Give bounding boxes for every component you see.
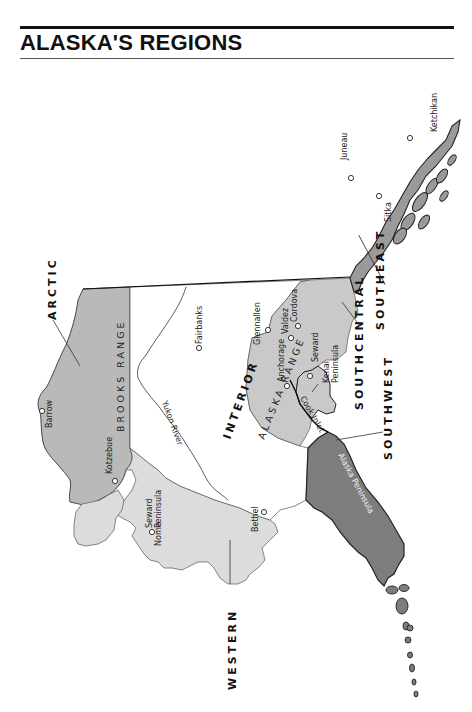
seward-peninsula-label-2: Peninsula bbox=[154, 490, 163, 528]
valdez-label: Valdez bbox=[281, 308, 290, 334]
region-label-southwest: SOUTHWEST bbox=[382, 355, 395, 460]
sitka-marker bbox=[376, 193, 381, 198]
ketchikan-label: Ketchikan bbox=[430, 93, 439, 132]
cordova-marker bbox=[295, 323, 300, 328]
nome-label: Nome bbox=[154, 522, 163, 546]
aleutian-islands bbox=[386, 585, 418, 698]
anchorage-label: Anchorage bbox=[277, 339, 286, 382]
region-label-southcentral: SOUTHCENTRAL bbox=[353, 275, 366, 410]
southwest-leader-line bbox=[336, 432, 383, 440]
barrow-label: Barrow bbox=[45, 399, 54, 428]
brooks-range-label: BROOKS RANGE bbox=[115, 319, 126, 432]
ketchikan-marker bbox=[407, 135, 412, 140]
seward-label: Seward bbox=[311, 332, 320, 362]
fairbanks-marker bbox=[196, 345, 201, 350]
seward-peninsula-label-1: Seward bbox=[145, 498, 154, 528]
fairbanks-label: Fairbanks bbox=[195, 306, 204, 344]
region-southeast-shape bbox=[350, 120, 460, 292]
valdez-marker bbox=[288, 335, 293, 340]
bethel-marker bbox=[261, 509, 266, 514]
kotzebue-marker bbox=[112, 478, 117, 483]
alaska-map: ARCTIC INTERIOR WESTERN SOUTHWEST SOUTHC… bbox=[0, 0, 472, 712]
kenai-peninsula-label-2: Peninsula bbox=[331, 345, 340, 383]
kotzebue-label: Kotzebue bbox=[105, 437, 114, 474]
kenai-peninsula-label-1: Kenai bbox=[322, 361, 331, 383]
barrow-marker bbox=[39, 408, 44, 413]
region-label-arctic: ARCTIC bbox=[46, 257, 59, 320]
region-label-western: WESTERN bbox=[226, 609, 239, 690]
sitka-label: Sitka bbox=[384, 202, 393, 222]
juneau-label: Juneau bbox=[340, 133, 349, 161]
glennallen-label: Glennallen bbox=[253, 302, 262, 345]
cordova-label: Cordova bbox=[290, 289, 299, 322]
region-label-southeast: SOUTHEAST bbox=[374, 229, 387, 330]
glennallen-marker bbox=[265, 327, 270, 332]
juneau-marker bbox=[348, 175, 353, 180]
bethel-label: Bethel bbox=[251, 506, 260, 532]
seward-marker bbox=[307, 373, 312, 378]
